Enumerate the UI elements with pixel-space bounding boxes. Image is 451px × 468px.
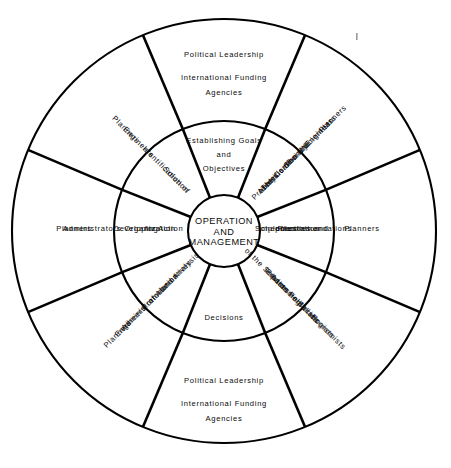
operation-management-wheel-diagram: OPERATION AND MANAGEMENT Establishing Go… — [0, 0, 451, 468]
hub-line-2: AND — [214, 227, 235, 237]
inner-label-line: and — [217, 150, 232, 159]
outer-segment-left: Planners — [344, 224, 380, 233]
outer-spoke-4 — [143, 333, 183, 427]
outer-label-line: Political Leadership — [184, 376, 264, 385]
outer-segment-right: Planners Administrators — [56, 224, 121, 233]
hub-line-1: OPERATION — [195, 216, 253, 226]
inner-label-line: Decisions — [204, 313, 243, 322]
inner-segment-decisions: Decisions — [204, 313, 243, 322]
scan-speck — [356, 33, 358, 40]
outer-label-line: Agencies — [206, 88, 243, 97]
outer-spoke-3 — [265, 333, 305, 427]
outer-spoke-7 — [143, 35, 183, 129]
inner-segment-developing-organization: Developing Organization for Action — [114, 224, 184, 233]
wheel-svg: OPERATION AND MANAGEMENT Establishing Go… — [0, 0, 451, 468]
inner-label-line: for Action — [145, 224, 184, 233]
outer-segment-top: Political Leadership International Fundi… — [181, 50, 267, 97]
outer-label-line: The Community — [259, 142, 310, 193]
outer-label-line: Administrators — [119, 285, 167, 333]
hub-label: OPERATION AND MANAGEMENT — [189, 216, 260, 247]
inner-label-line: and Analysis — [159, 250, 201, 292]
outer-spoke-2 — [326, 272, 420, 312]
inner-label-line: Solution — [161, 165, 191, 195]
inner-spoke-2 — [257, 190, 326, 217]
outer-segment-upper-right: Planners Engineers — [110, 114, 156, 160]
inner-label-line: Schedules — [255, 224, 297, 233]
outer-segment-lower-left: Economists Sociologists Politicians Envi… — [264, 267, 348, 351]
inner-spoke-4 — [238, 264, 265, 333]
outer-spoke-5 — [28, 272, 122, 312]
outer-label-line: Agencies — [206, 414, 243, 423]
outer-segment-bottom: Political Leadership International Fundi… — [181, 376, 267, 423]
inner-spoke-5 — [183, 264, 210, 333]
outer-label-line: Administrators — [63, 224, 121, 233]
inner-label-line: Objectives — [203, 164, 245, 173]
outer-spoke-6 — [28, 150, 122, 190]
inner-label-line: Establishing Goals — [186, 136, 262, 145]
outer-segment-upper-left: Planners Engineers Social Scientists The… — [259, 103, 348, 192]
inner-segment-recommendations: Recommendations priorities and Implement… — [255, 224, 352, 233]
outer-spoke-8 — [265, 35, 305, 129]
outer-label-line: Engineers — [121, 125, 156, 160]
outer-label-line: Planners — [344, 224, 380, 233]
outer-label-line: Political Leadership — [184, 50, 264, 59]
outer-label-line: International Funding — [181, 73, 267, 82]
outer-spoke-1 — [326, 150, 420, 190]
outer-label-line: International Funding — [181, 399, 267, 408]
inner-spoke-7 — [122, 190, 191, 217]
